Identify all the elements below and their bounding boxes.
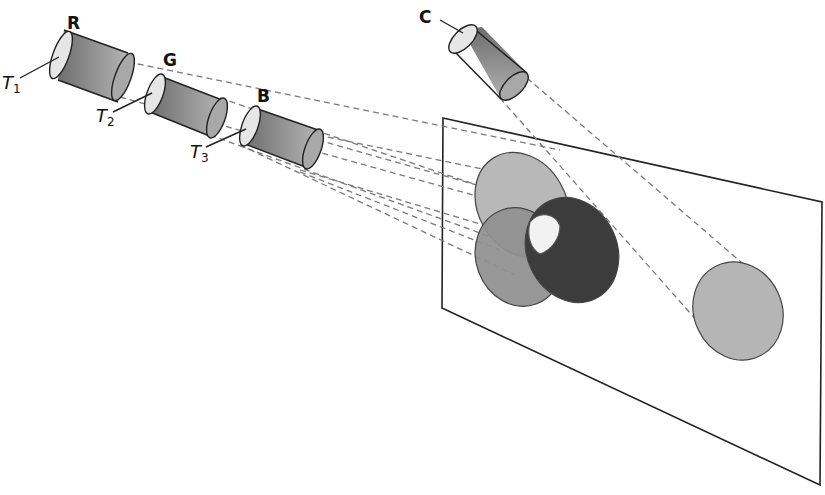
tube-r: [45, 29, 139, 103]
tube-r-label: R: [67, 15, 80, 32]
tip-label-t2: T2: [96, 107, 115, 128]
tube-b-label: B: [257, 88, 270, 105]
projection-diagram: [0, 0, 825, 495]
tube-b: [235, 104, 327, 172]
tube-c: [444, 20, 533, 105]
tip-label-t1: T1: [2, 74, 21, 95]
tube-g-label: G: [163, 52, 177, 69]
tube-g: [140, 72, 231, 141]
tip-label-t3: T3: [190, 143, 209, 164]
tube-c-label: C: [419, 9, 431, 26]
